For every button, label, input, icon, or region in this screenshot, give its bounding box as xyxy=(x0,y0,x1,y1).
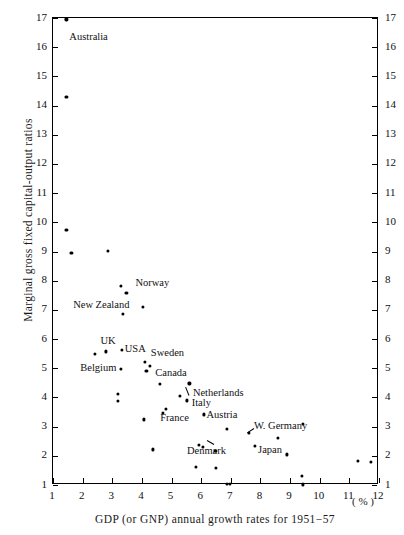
point-label-new-zealand: New Zealand xyxy=(73,299,129,310)
y-tick-label-right-9: 9 xyxy=(385,245,404,256)
data-point xyxy=(116,392,119,395)
y-tick-left-9 xyxy=(53,252,58,253)
data-point xyxy=(143,360,146,363)
y-tick-label-right-1: 1 xyxy=(385,479,404,490)
y-tick-left-15 xyxy=(53,76,58,77)
y-tick-left-11 xyxy=(53,193,58,194)
point-label-france: France xyxy=(160,412,189,423)
data-point xyxy=(229,482,232,485)
y-tick-left-4 xyxy=(53,397,58,398)
data-point xyxy=(143,418,146,421)
data-point xyxy=(165,407,168,410)
y-tick-label-right-14: 14 xyxy=(385,99,404,110)
y-tick-right-12 xyxy=(372,164,377,165)
data-point xyxy=(104,350,107,353)
data-point xyxy=(120,349,123,352)
y-tick-label-left-3: 3 xyxy=(21,420,47,431)
y-tick-label-right-2: 2 xyxy=(385,449,404,460)
data-point xyxy=(369,460,372,463)
point-label-w-germany: W. Germany xyxy=(254,420,307,431)
y-tick-label-right-13: 13 xyxy=(385,128,404,139)
y-tick-left-5 xyxy=(53,368,58,369)
y-tick-label-right-5: 5 xyxy=(385,362,404,373)
y-tick-label-left-17: 17 xyxy=(21,12,47,23)
plot-area: AustraliaNorwayNew ZealandUKUSASwedenBel… xyxy=(52,17,378,484)
data-point xyxy=(158,383,161,386)
y-tick-label-left-5: 5 xyxy=(21,362,47,373)
y-tick-left-10 xyxy=(53,222,58,223)
y-tick-left-12 xyxy=(53,164,58,165)
data-point xyxy=(106,249,109,252)
y-tick-left-14 xyxy=(53,106,58,107)
data-point xyxy=(93,353,96,356)
x-tick-label-9: 9 xyxy=(277,490,301,501)
x-tick-10 xyxy=(320,478,321,483)
y-tick-right-15 xyxy=(372,76,377,77)
x-tick-12 xyxy=(379,478,380,483)
data-point xyxy=(65,95,68,98)
x-tick-label-4: 4 xyxy=(129,490,153,501)
point-label-canada: Canada xyxy=(155,367,187,378)
data-point xyxy=(141,305,144,308)
y-tick-right-3 xyxy=(372,427,377,428)
data-point xyxy=(152,448,155,451)
y-tick-left-6 xyxy=(53,339,58,340)
y-tick-left-8 xyxy=(53,281,58,282)
point-label-austria: Austria xyxy=(207,409,238,420)
point-label-norway: Norway xyxy=(135,277,169,288)
point-label-italy: Italy xyxy=(192,397,211,408)
data-point xyxy=(214,466,217,469)
y-tick-label-right-11: 11 xyxy=(385,187,404,198)
y-tick-left-13 xyxy=(53,135,58,136)
y-tick-label-right-10: 10 xyxy=(385,216,404,227)
y-tick-label-left-13: 13 xyxy=(21,128,47,139)
leader-line xyxy=(207,440,214,445)
data-point xyxy=(188,382,191,385)
y-tick-label-left-9: 9 xyxy=(21,245,47,256)
x-tick-6 xyxy=(201,478,202,483)
data-point xyxy=(226,427,229,430)
data-point xyxy=(120,284,123,287)
data-point xyxy=(178,394,181,397)
x-tick-label-10: 10 xyxy=(307,490,331,501)
y-tick-left-17 xyxy=(53,18,58,19)
x-tick-4 xyxy=(142,478,143,483)
y-tick-right-6 xyxy=(372,339,377,340)
x-tick-label-8: 8 xyxy=(247,490,271,501)
data-point xyxy=(276,436,279,439)
data-point xyxy=(185,399,188,402)
x-tick-3 xyxy=(112,478,113,483)
leader-line xyxy=(185,387,189,396)
data-point xyxy=(248,431,251,434)
y-tick-right-8 xyxy=(372,281,377,282)
y-tick-label-left-8: 8 xyxy=(21,274,47,285)
point-label-denmark: Denmark xyxy=(187,445,226,456)
y-tick-label-right-15: 15 xyxy=(385,70,404,81)
point-label-netherlands: Netherlands xyxy=(193,387,244,398)
y-tick-label-right-7: 7 xyxy=(385,303,404,314)
x-tick-label-7: 7 xyxy=(218,490,242,501)
data-point xyxy=(121,312,124,315)
point-label-sweden: Sweden xyxy=(151,347,184,358)
data-point xyxy=(65,18,68,21)
data-point xyxy=(117,399,120,402)
y-tick-right-9 xyxy=(372,252,377,253)
y-tick-label-right-3: 3 xyxy=(385,420,404,431)
x-tick-8 xyxy=(260,478,261,483)
y-tick-right-10 xyxy=(372,222,377,223)
y-tick-label-left-7: 7 xyxy=(21,303,47,314)
x-tick-1 xyxy=(53,478,54,483)
y-tick-right-1 xyxy=(372,485,377,486)
data-point xyxy=(300,474,303,477)
y-tick-label-left-14: 14 xyxy=(21,99,47,110)
scatter-chart-figure: Marginal gross fixed capital-output rati… xyxy=(0,0,404,535)
y-tick-left-3 xyxy=(53,427,58,428)
x-tick-label-1: 1 xyxy=(40,490,64,501)
point-label-usa: USA xyxy=(125,343,146,354)
y-tick-right-13 xyxy=(372,135,377,136)
x-tick-11 xyxy=(349,478,350,483)
data-point xyxy=(202,413,205,416)
data-point xyxy=(254,444,257,447)
x-tick-9 xyxy=(290,478,291,483)
y-tick-label-left-1: 1 xyxy=(21,479,47,490)
